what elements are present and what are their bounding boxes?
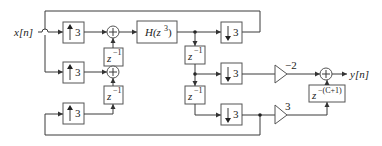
svg-text:−1: −1 (113, 48, 122, 57)
downsampler-1: 3 (221, 22, 242, 43)
wire (287, 102, 327, 115)
upsampler-3: 3 (63, 103, 84, 124)
delay-left-1: z −1 (104, 48, 123, 66)
svg-text:z: z (187, 50, 193, 62)
svg-text:): ) (168, 26, 172, 39)
svg-text:−2: −2 (285, 59, 297, 71)
block-diagram: x[n] 3 3 3 z −1 (0, 0, 382, 146)
upsampler-2: 3 (63, 62, 84, 83)
svg-text:z: z (311, 89, 317, 101)
output-label: y[n] (349, 68, 369, 80)
adder-3 (320, 68, 332, 80)
delay-output: z −(C+1) (309, 85, 345, 102)
junction (258, 113, 262, 117)
svg-text:z: z (106, 90, 112, 102)
gain-minus-2: −2 (275, 59, 297, 83)
upsampler-1: 3 (63, 22, 84, 43)
wire (84, 104, 113, 114)
upsampler-2-factor: 3 (75, 66, 81, 78)
svg-text:3: 3 (285, 100, 291, 112)
svg-text:3: 3 (233, 108, 239, 120)
svg-text:−1: −1 (194, 86, 203, 95)
downsampler-2: 3 (221, 63, 242, 84)
svg-text:H(z: H(z (144, 26, 162, 39)
svg-text:z: z (187, 90, 193, 102)
input-label: x[n] (13, 26, 33, 38)
svg-text:−1: −1 (194, 46, 203, 55)
upsampler-1-factor: 3 (75, 26, 81, 38)
upsampler-3-factor: 3 (75, 107, 81, 119)
svg-text:−1: −1 (113, 86, 122, 95)
svg-text:3: 3 (233, 67, 239, 79)
input-wire (38, 29, 63, 32)
adder-2 (107, 66, 119, 78)
downsampler-3: 3 (221, 104, 242, 125)
gain-3: 3 (275, 100, 291, 124)
svg-text:3: 3 (233, 26, 239, 38)
delay-right-2: z −1 (185, 86, 205, 104)
svg-text:−(C+1): −(C+1) (318, 86, 342, 95)
input-branch-wire (45, 11, 63, 72)
wire (195, 104, 221, 115)
svg-text:z: z (106, 52, 112, 64)
adder-1 (107, 26, 119, 38)
delay-right-1: z −1 (185, 46, 205, 64)
filter-h-z3: H(z 3 ) (137, 21, 177, 43)
delay-left-2: z −1 (104, 86, 123, 104)
